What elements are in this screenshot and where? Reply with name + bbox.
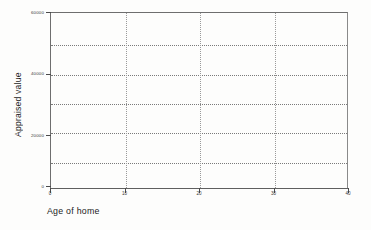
x-tick-label-30: 30 [271,191,276,197]
gridline-horizontal-10000 [51,163,347,164]
plot-area [50,12,348,188]
y-tick-label-0: 0 [41,184,44,189]
gridline-vertical-10 [126,13,127,188]
y-tick-mark-60000 [46,12,51,13]
y-tick-mark-20000 [46,135,51,136]
x-axis-title: Age of home [47,206,100,216]
gridline-horizontal-20000 [51,133,347,134]
gridline-horizontal-40000 [51,75,347,76]
y-tick-mark-0 [46,186,51,187]
y-tick-label-60000: 60000 [31,10,44,15]
gridline-vertical-20 [200,13,201,188]
y-tick-mark-40000 [46,74,51,75]
x-tick-label-10: 10 [122,191,127,197]
x-tick-label-20: 20 [196,191,201,197]
y-tick-label-20000: 20000 [31,133,44,138]
gridline-vertical-30 [275,13,276,188]
chart-canvas: 60000 40000 20000 0 0 10 20 30 40 Apprai… [0,0,371,230]
gridline-horizontal-50000 [51,45,347,46]
y-axis-title: Appraised value [13,55,27,155]
gridline-horizontal-30000 [51,104,347,105]
x-tick-label-0: 0 [49,191,52,197]
x-tick-label-40: 40 [345,191,350,197]
y-tick-label-40000: 40000 [31,71,44,76]
